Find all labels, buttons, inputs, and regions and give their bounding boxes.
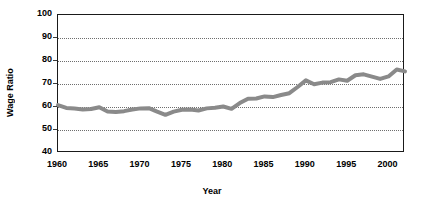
y-tick-label-90: 90 xyxy=(18,32,52,41)
x-tick-label-1970: 1970 xyxy=(120,160,160,169)
y-axis-title: Wage Ratio xyxy=(2,46,18,140)
x-tick-label-1980: 1980 xyxy=(202,160,242,169)
y-tick-label-60: 60 xyxy=(18,101,52,110)
y-tick-mark-80 xyxy=(53,60,57,61)
y-tick-mark-70 xyxy=(53,83,57,84)
x-tick-label-1995: 1995 xyxy=(326,160,366,169)
y-tick-label-40: 40 xyxy=(18,147,52,156)
y-tick-mark-60 xyxy=(53,106,57,107)
plot-area xyxy=(57,14,404,152)
data-line-wage-ratio xyxy=(58,15,405,153)
x-tick-label-1990: 1990 xyxy=(285,160,325,169)
wage-ratio-line-chart: Wage Ratio 100908070605040 1960196519701… xyxy=(0,0,424,212)
y-tick-label-100: 100 xyxy=(18,9,52,18)
x-axis-title: Year xyxy=(0,186,424,196)
x-tick-label-2000: 2000 xyxy=(367,160,407,169)
y-tick-label-80: 80 xyxy=(18,55,52,64)
y-tick-mark-90 xyxy=(53,37,57,38)
y-tick-mark-50 xyxy=(53,129,57,130)
x-tick-label-1965: 1965 xyxy=(78,160,118,169)
y-tick-label-50: 50 xyxy=(18,124,52,133)
series-polyline-wage-ratio xyxy=(58,70,405,115)
x-tick-label-1975: 1975 xyxy=(161,160,201,169)
x-tick-label-1985: 1985 xyxy=(244,160,284,169)
y-tick-label-70: 70 xyxy=(18,78,52,87)
x-tick-label-1960: 1960 xyxy=(37,160,77,169)
